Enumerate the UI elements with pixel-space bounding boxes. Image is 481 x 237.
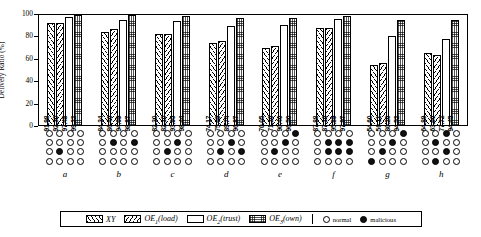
normal-node-dot xyxy=(368,139,375,146)
legend-swatch xyxy=(124,215,141,223)
normal-node-dot xyxy=(389,158,396,165)
matrix-group-g: g xyxy=(361,130,415,192)
matrix-row xyxy=(422,148,461,155)
bar-c-OE3own: 98.44 xyxy=(182,16,190,126)
matrix-group-f: f xyxy=(307,130,361,192)
normal-node-dot xyxy=(207,130,214,137)
y-tick-label: 0 xyxy=(9,122,33,129)
bar-c-OE2trust: 93.95 xyxy=(173,21,181,126)
normal-node-dot xyxy=(453,130,460,137)
malicious-node-dot xyxy=(292,130,299,137)
normal-node-dot xyxy=(153,139,160,146)
y-tick-mark xyxy=(34,126,38,127)
bar-a-OE1load: 92.30 xyxy=(56,23,64,126)
group-label: g xyxy=(385,169,390,179)
normal-node-dot xyxy=(379,139,386,146)
normal-node-dot xyxy=(46,139,53,146)
matrix-row xyxy=(207,130,246,137)
matrix-row xyxy=(261,130,300,137)
normal-node-dot xyxy=(120,130,127,137)
bar-h-OE2trust: 77.72 xyxy=(442,39,450,126)
matrix-row xyxy=(153,130,192,137)
malicious-node-dot xyxy=(346,148,353,155)
normal-node-dot xyxy=(207,148,214,155)
bar-e-OE1load: 71.26 xyxy=(271,46,279,126)
legend-label: XY xyxy=(106,215,115,224)
normal-node-dot xyxy=(185,148,192,155)
normal-node-dot xyxy=(314,139,321,146)
y-tick-label: 40 xyxy=(9,77,33,84)
legend-item-XY: XY xyxy=(86,215,115,224)
normal-node-dot xyxy=(77,130,84,137)
malicious-node-dot xyxy=(238,148,245,155)
normal-node-dot xyxy=(292,139,299,146)
bar-group-a: 91.9892.3097.4899.22 xyxy=(38,14,92,126)
malicious-node-dot xyxy=(335,139,342,146)
bar-a-OE3own: 99.22 xyxy=(74,15,82,126)
matrix-row xyxy=(314,158,353,165)
matrix-row xyxy=(46,158,85,165)
matrix-row xyxy=(99,130,138,137)
normal-node-dot xyxy=(443,139,450,146)
bar-b-OE1load: 86.46 xyxy=(110,29,118,126)
normal-node-dot xyxy=(346,158,353,165)
bar-group-f: 87.8887.1695.8997.97 xyxy=(307,14,361,126)
matrix-row xyxy=(314,148,353,155)
normal-node-dot xyxy=(261,158,268,165)
matrix-row xyxy=(261,148,300,155)
normal-node-dot xyxy=(238,158,245,165)
normal-node-dot xyxy=(335,130,342,137)
normal-node-dot xyxy=(217,139,224,146)
matrix-group-b: b xyxy=(92,130,146,192)
normal-node-dot xyxy=(228,148,235,155)
matrix-row xyxy=(368,148,407,155)
normal-node-dot xyxy=(131,130,138,137)
matrix-row xyxy=(153,158,192,165)
y-tick-label: 100 xyxy=(9,10,33,17)
malicious-node-dot xyxy=(325,139,332,146)
group-label: f xyxy=(332,169,335,179)
bar-a-OE2trust: 97.48 xyxy=(65,17,73,126)
normal-node-dot xyxy=(77,158,84,165)
bar-d-OE2trust: 89.74 xyxy=(227,26,235,127)
normal-node-dot xyxy=(185,158,192,165)
malicious-node-dot xyxy=(325,148,332,155)
normal-node-dot xyxy=(110,130,117,137)
normal-node-dot xyxy=(56,130,63,137)
normal-node-dot xyxy=(174,148,181,155)
bar-f-XY: 87.88 xyxy=(316,28,324,126)
normal-node-dot xyxy=(56,139,63,146)
normal-node-dot xyxy=(46,130,53,137)
malicious-node-dot xyxy=(282,139,289,146)
normal-node-dot xyxy=(99,130,106,137)
malicious-node-dot xyxy=(164,148,171,155)
matrix-row xyxy=(46,130,85,137)
normal-node-dot xyxy=(207,158,214,165)
node-status-matrix: abcdefgh xyxy=(38,130,468,192)
normal-node-dot xyxy=(120,148,127,155)
y-tick-label: 20 xyxy=(9,100,33,107)
normal-node-dot xyxy=(164,139,171,146)
matrix-row xyxy=(153,148,192,155)
normal-node-dot xyxy=(400,139,407,146)
legend-swatch xyxy=(249,215,266,223)
normal-node-dot xyxy=(314,158,321,165)
matrix-row xyxy=(99,148,138,155)
malicious-node-dot xyxy=(379,148,386,155)
malicious-node-dot xyxy=(271,148,278,155)
normal-node-dot xyxy=(99,139,106,146)
normal-node-dot xyxy=(379,158,386,165)
normal-node-dot xyxy=(46,158,53,165)
normal-node-dot xyxy=(400,158,407,165)
normal-node-dot xyxy=(228,130,235,137)
bar-group-e: 70.0571.2690.4696.50 xyxy=(253,14,307,126)
normal-node-dot xyxy=(67,130,74,137)
normal-node-dot xyxy=(282,158,289,165)
matrix-group-d: d xyxy=(199,130,253,192)
matrix-row xyxy=(261,139,300,146)
bar-group-h: 64.8963.6677.7294.45 xyxy=(414,14,468,126)
bar-d-OE3own: 96.87 xyxy=(236,18,244,126)
normal-node-dot xyxy=(238,139,245,146)
bar-f-OE2trust: 95.89 xyxy=(334,19,342,126)
matrix-row xyxy=(207,139,246,146)
